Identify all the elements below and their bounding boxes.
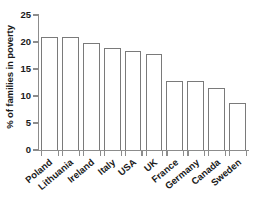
x-tick-mark xyxy=(225,151,226,156)
y-axis-title: % of families in poverty xyxy=(3,2,17,152)
x-tick-mark xyxy=(204,151,205,156)
bar xyxy=(208,88,225,150)
y-tick-label-wrap: 25 xyxy=(0,10,31,20)
x-tick-mark xyxy=(58,151,59,156)
y-tick-mark xyxy=(33,68,38,69)
y-tick-label: 5 xyxy=(1,118,31,128)
y-tick-mark xyxy=(33,95,38,96)
x-axis-line xyxy=(38,150,249,151)
bar xyxy=(187,81,204,150)
y-tick-label-wrap: 15 xyxy=(0,64,31,74)
y-tick-mark xyxy=(33,149,38,150)
x-tick-mark xyxy=(100,151,101,156)
x-tick-mark xyxy=(246,151,247,156)
bar xyxy=(229,103,246,150)
x-tick-mark xyxy=(141,151,142,156)
y-tick-label: 10 xyxy=(1,91,31,101)
y-tick-label: 0 xyxy=(1,145,31,155)
bar xyxy=(166,81,183,150)
bar xyxy=(83,43,100,150)
y-tick-mark xyxy=(33,41,38,42)
y-tick-label: 15 xyxy=(1,64,31,74)
x-tick-mark xyxy=(183,151,184,156)
y-tick-label-wrap: 0 xyxy=(0,145,31,155)
x-tick-mark xyxy=(162,151,163,156)
x-tick-mark xyxy=(187,151,188,156)
x-tick-mark xyxy=(62,151,63,156)
x-tick-mark xyxy=(104,151,105,156)
y-tick-label-wrap: 10 xyxy=(0,91,31,101)
bar xyxy=(104,48,121,150)
y-tick-mark xyxy=(33,14,38,15)
x-tick-mark xyxy=(229,151,230,156)
y-tick-label-wrap: 5 xyxy=(0,118,31,128)
y-tick-mark xyxy=(33,122,38,123)
bar xyxy=(41,37,58,150)
plot-area xyxy=(39,15,248,150)
x-tick-mark xyxy=(146,151,147,156)
bar xyxy=(146,54,163,150)
y-tick-label-wrap: 20 xyxy=(0,37,31,47)
x-tick-mark xyxy=(83,151,84,156)
x-tick-mark xyxy=(79,151,80,156)
x-tick-mark xyxy=(166,151,167,156)
poverty-bar-chart: % of families in poverty 0510152025 Pola… xyxy=(0,0,258,210)
x-tick-mark xyxy=(208,151,209,156)
y-tick-label: 25 xyxy=(1,10,31,20)
bar xyxy=(125,51,142,150)
bar xyxy=(62,37,79,150)
x-tick-mark xyxy=(121,151,122,156)
x-tick-mark xyxy=(125,151,126,156)
y-tick-label: 20 xyxy=(1,37,31,47)
x-tick-mark xyxy=(41,151,42,156)
